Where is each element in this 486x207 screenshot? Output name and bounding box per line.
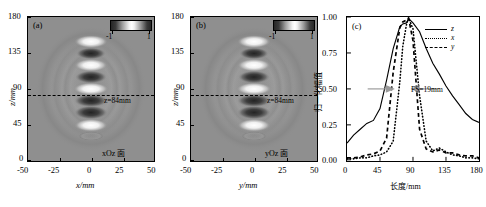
panel-b-xtick-0: 0	[250, 165, 254, 175]
legend-label-x: x	[451, 33, 454, 42]
panel-c-xtick-135: 135	[438, 165, 451, 175]
panel-a-ytick-135: 135	[8, 46, 21, 56]
panel-a-marker-label: z=84mm	[104, 96, 131, 105]
panel-b-ytick-135: 135	[171, 46, 184, 56]
panel-a-ytick-180: 180	[8, 11, 21, 21]
panel-c-ytick-000: 0.00	[322, 155, 337, 165]
panel-a-marker-line	[28, 95, 154, 96]
panel-b-plane-label: yOz 面	[265, 147, 288, 158]
panel-c-x-axis-label: 长度/mm	[390, 180, 421, 191]
panel-b-field-image	[191, 17, 317, 161]
panel-c-ytick-100: 1.00	[322, 12, 337, 22]
panel-b-xtick-neg50: -50	[180, 165, 191, 175]
panel-a-heatmap: z=84mm (a) xOz 面 -1 1	[27, 16, 155, 162]
panel-a-field-image	[28, 17, 154, 161]
panel-b-x-axis-label: y/mm	[239, 180, 257, 190]
legend-swatch-x	[425, 38, 447, 39]
panel-c-fs-annotation: FS=19mm	[411, 85, 443, 94]
panel-b-ytick-45: 45	[176, 118, 185, 128]
panel-a-xtick-25: 25	[115, 165, 124, 175]
panel-c-legend: z x y	[425, 25, 473, 52]
panel-c-ytick-050: 0.50	[322, 84, 337, 94]
panel-b-marker-line	[191, 95, 317, 96]
legend-swatch-y	[425, 47, 447, 48]
panel-a-y-axis-label: z/mm	[7, 88, 17, 106]
panel-a-colorbar-min-label: -1	[106, 32, 112, 41]
panel-b-xtick-25: 25	[278, 165, 287, 175]
panel-b-colorbar	[273, 20, 315, 31]
panel-c-letter: (c)	[352, 21, 361, 31]
panel-a-ytick-0: 0	[19, 153, 23, 163]
panel-b-xtick-50: 50	[310, 165, 319, 175]
panel-c-y-axis-label: 归一化幅值	[312, 72, 323, 112]
panel-c-xtick-45: 45	[373, 165, 382, 175]
panel-c-xtick-90: 90	[406, 165, 415, 175]
legend-item-y: y	[425, 43, 473, 52]
panel-a-ytick-45: 45	[13, 118, 22, 128]
panel-a-xtick-0: 0	[87, 165, 91, 175]
panel-a-xtick-50: 50	[147, 165, 156, 175]
panel-b-ytick-180: 180	[171, 11, 184, 21]
panel-b-marker-label: z=84mm	[267, 96, 294, 105]
panel-b-xtick-neg25: -25	[211, 165, 222, 175]
legend-item-x: x	[425, 34, 473, 43]
panel-b-letter: (b)	[196, 20, 206, 30]
figure-root: 180 135 90 45 0 z/mm	[0, 0, 486, 207]
panel-c-ytick-075: 0.75	[322, 48, 337, 58]
panel-a-colorbar-max-label: 1	[147, 32, 151, 41]
legend-label-z: z	[451, 24, 454, 33]
panel-a-letter: (a)	[33, 20, 42, 30]
fwhm-arrow-left	[368, 86, 394, 92]
legend-swatch-z	[425, 29, 447, 30]
panel-b-colorbar-max-label: 1	[310, 32, 314, 41]
legend-item-z: z	[425, 25, 473, 34]
panel-c-ytick-025: 0.25	[322, 120, 337, 130]
legend-label-y: y	[451, 42, 454, 51]
panel-a-xtick-neg50: -50	[17, 165, 28, 175]
panel-c-xtick-0: 0	[343, 165, 347, 175]
panel-a-plane-label: xOz 面	[102, 147, 125, 158]
panel-a-x-axis-label: x/mm	[76, 180, 94, 190]
panel-a-colorbar	[110, 20, 152, 31]
panel-a-xtick-neg25: -25	[48, 165, 59, 175]
panel-b-heatmap: z=84mm (b) yOz 面 -1 1	[190, 16, 318, 162]
panel-b-ytick-0: 0	[182, 153, 186, 163]
panel-b-colorbar-min-label: -1	[269, 32, 275, 41]
panel-b-y-axis-label: z/mm	[170, 88, 180, 106]
panel-c-xtick-180: 180	[470, 165, 483, 175]
panel-c-plot-area: (c) FS=19mm z x y	[346, 16, 480, 162]
